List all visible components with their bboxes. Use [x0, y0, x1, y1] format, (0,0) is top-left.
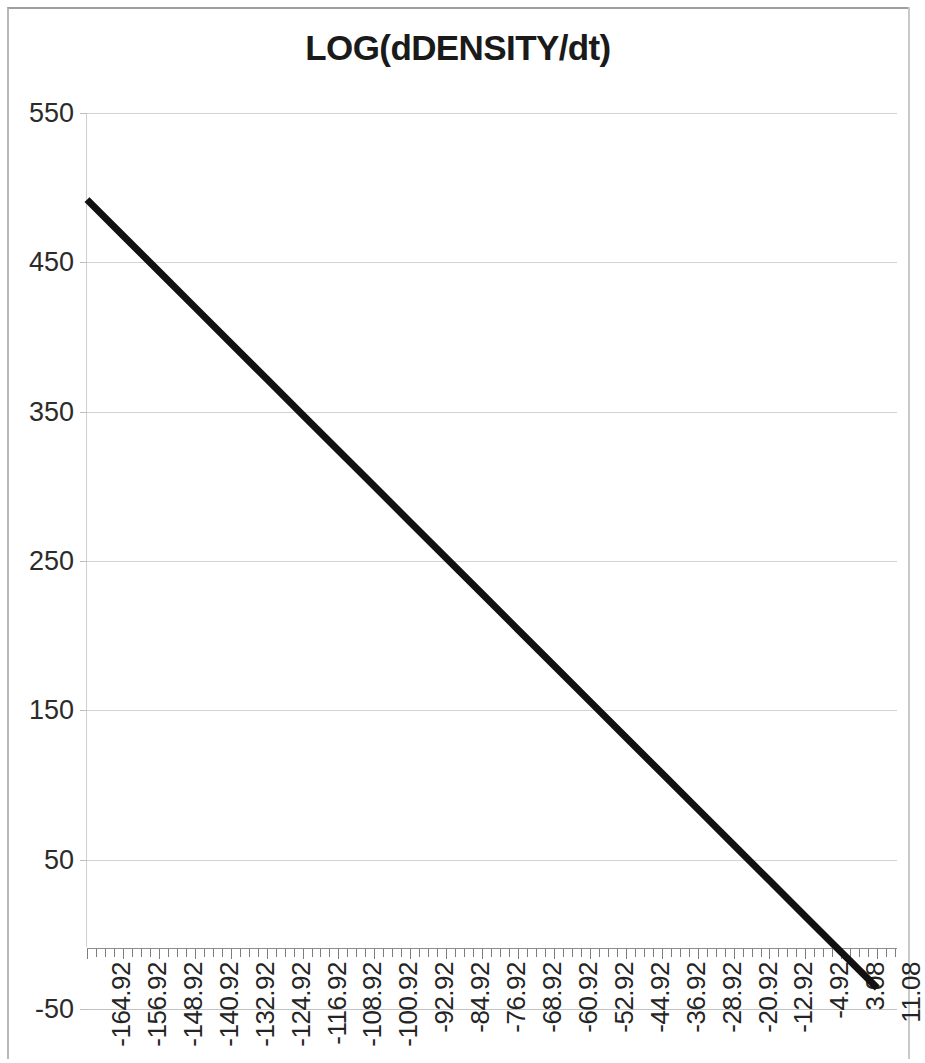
y-axis-tick-mark [80, 860, 87, 861]
y-axis-tick-mark [80, 1009, 87, 1010]
y-axis-tick-mark [80, 262, 87, 263]
y-axis-tick-mark [80, 561, 87, 562]
y-axis-tick-mark [80, 412, 87, 413]
y-axis-tick-mark [80, 710, 87, 711]
y-axis-tick-mark [80, 113, 87, 114]
series-line-log-ddensity-dt [87, 200, 877, 988]
